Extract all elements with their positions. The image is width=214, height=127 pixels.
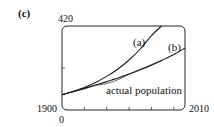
panel-label: (c)	[18, 7, 31, 20]
y-tick-label-top: 420	[58, 13, 73, 24]
curve-label-actual-population: actual population	[106, 84, 183, 96]
curve-label-a: (a)	[133, 36, 146, 49]
x-tick-label-left: 1900	[37, 103, 57, 114]
chart: (c) 420 1900 0 2010 (a) (b) actual popul…	[0, 0, 214, 127]
curve-label-b: (b)	[168, 41, 181, 54]
y-tick-label-bottom: 0	[59, 114, 64, 125]
plot-frame	[62, 26, 185, 110]
x-tick-label-right: 2010	[189, 103, 209, 114]
